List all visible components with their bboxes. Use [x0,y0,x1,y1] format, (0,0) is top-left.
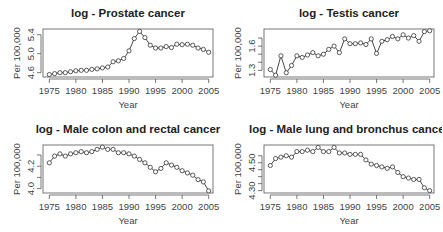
x-tick-label: 1990 [339,85,360,96]
x-axis-label: Year [339,215,358,226]
data-point [327,149,331,153]
data-point [53,154,57,158]
x-tick-label: 1985 [313,85,334,96]
series-markers [268,145,432,192]
chart-title: log - Male lung and bronchus cancer [249,123,442,135]
data-point [327,47,331,51]
data-point [153,46,157,50]
data-point [191,43,195,47]
y-tick-label: 4.6 [25,66,36,79]
x-tick-label: 1985 [92,201,113,212]
data-point [74,69,78,73]
data-point [100,66,104,70]
data-point [343,151,347,155]
data-point [369,162,373,166]
data-point [274,156,278,160]
x-tick-label: 1985 [313,201,334,212]
data-point [321,149,325,153]
data-point [100,145,104,149]
data-point [268,163,272,167]
chart-title: log - Male colon and rectal cancer [36,123,221,135]
data-point [79,150,83,154]
data-point [380,39,384,43]
data-point [180,169,184,173]
data-point [353,42,357,46]
data-point [369,37,373,41]
data-point [428,189,432,193]
data-point [380,165,384,169]
x-tick-label: 2000 [172,201,193,212]
x-tick-label: 1980 [286,85,307,96]
y-axis-label: Per 100,000 [11,143,22,195]
data-point [90,67,94,71]
x-tick-label: 1990 [339,201,360,212]
x-tick-label: 1995 [145,85,166,96]
data-point [143,161,147,165]
x-tick-label: 2000 [393,85,414,96]
data-point [406,176,410,180]
x-tick-label: 2000 [172,85,193,96]
chart-panel-testis: log - Testis cancer197519801985199019952… [221,0,442,116]
data-point [169,163,173,167]
data-point [300,55,304,59]
lung-bronchus-chart: log - Male lung and bronchus cancer19751… [221,116,442,232]
data-point [201,180,205,184]
chart-panel-colon: log - Male colon and rectal cancer197519… [0,116,221,232]
data-point [180,43,184,47]
data-point [106,65,110,69]
x-axis: 1975198019851990199520002005Year [260,79,441,110]
data-point [111,147,115,151]
series-markers [47,29,211,76]
data-point [390,34,394,38]
data-point [412,34,416,38]
chart-panel-prostate: log - Prostate cancer1975198019851990199… [0,0,221,116]
data-point [164,161,168,165]
data-point [127,49,131,53]
data-point [159,166,163,170]
data-point [116,59,120,63]
x-tick-label: 1990 [118,85,139,96]
data-point [284,71,288,75]
y-tick-label: 4.2 [25,160,36,173]
data-point [148,165,152,169]
data-point [359,152,363,156]
data-point [111,60,115,64]
data-point [116,151,120,155]
data-point [316,145,320,149]
x-tick-label: 2005 [198,201,219,212]
y-tick-label: 5.4 [25,28,36,41]
x-tick-label: 1975 [39,85,60,96]
y-tick-label: 4.30 [246,181,257,200]
series-line [270,31,429,75]
data-point [374,51,378,55]
data-point [132,36,136,40]
y-tick-label: 4.0 [25,182,36,195]
data-point [353,152,357,156]
data-point [207,189,211,193]
chart-title: log - Testis cancer [299,7,400,19]
data-point [153,170,157,174]
data-point [191,173,195,177]
data-point [348,152,352,156]
data-point [175,42,179,46]
data-point [95,67,99,71]
x-axis-label: Year [118,215,137,226]
data-point [138,29,142,33]
y-axis-label: Per 100,000 [232,143,243,195]
data-point [175,165,179,169]
x-axis: 1975198019851990199520002005Year [39,79,220,110]
chart-grid: log - Prostate cancer1975198019851990199… [0,0,443,232]
data-point [143,35,147,39]
data-point [169,45,173,49]
data-point [53,72,57,76]
y-tick-label: 5.0 [25,47,36,60]
data-point [106,147,110,151]
data-point [122,56,126,60]
prostate-chart: log - Prostate cancer1975198019851990199… [0,0,221,116]
data-point [396,170,400,174]
data-point [201,47,205,51]
x-tick-label: 2005 [198,85,219,96]
data-point [401,175,405,179]
data-point [196,178,200,182]
x-tick-label: 1995 [366,85,387,96]
